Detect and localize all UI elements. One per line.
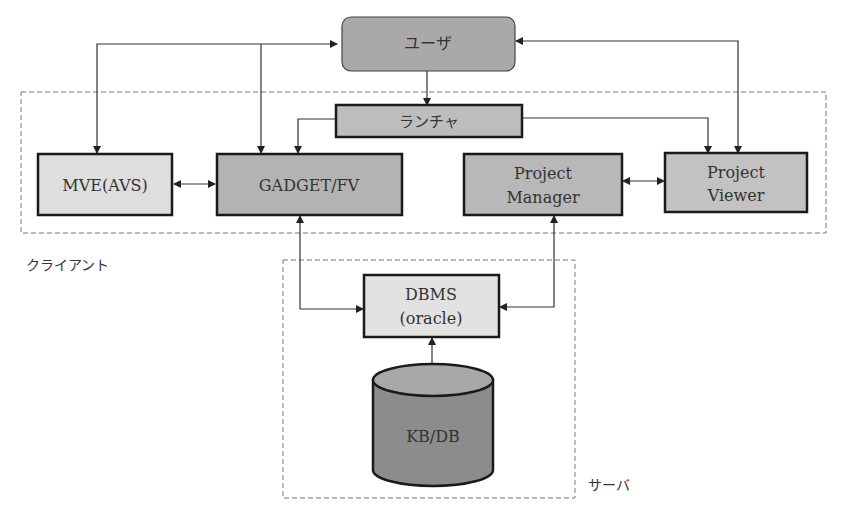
mve-node: MVE(AVS) (38, 154, 172, 215)
user-node: ユーザ (342, 17, 515, 71)
user-label: ユーザ (404, 34, 452, 53)
launcher-to-viewer-connector (522, 118, 708, 153)
user-to-mve-connector (97, 44, 337, 153)
dbms-label-line2: (oracle) (400, 309, 463, 328)
dbms-node: DBMS (oracle) (364, 275, 499, 337)
user-to-viewer-connector (516, 41, 738, 153)
kbdb-database-node: KB/DB (373, 364, 493, 486)
launcher-label: ランチャ (399, 113, 459, 131)
client-group-label: クライアント (26, 257, 109, 273)
project-manager-label-line2: Manager (506, 188, 579, 207)
project-viewer-label-line2: Viewer (707, 186, 765, 205)
project-manager-node: Project Manager (464, 154, 622, 215)
dbms-label-line1: DBMS (405, 285, 457, 304)
launcher-to-gadget-connector (298, 119, 335, 153)
gadget-dbms-connector (300, 216, 363, 309)
gadget-label: GADGET/FV (259, 176, 360, 195)
server-group-label: サーバ (588, 477, 630, 493)
project-viewer-node: Project Viewer (665, 153, 807, 212)
gadget-node: GADGET/FV (217, 154, 402, 215)
project-manager-label-line1: Project (514, 164, 572, 183)
architecture-diagram: ユーザ ランチャ MVE(AVS) GADGET/FV Project Mana… (0, 0, 843, 517)
launcher-node: ランチャ (336, 105, 522, 137)
mve-label: MVE(AVS) (62, 176, 147, 195)
manager-dbms-connector (500, 216, 554, 307)
kbdb-label: KB/DB (406, 427, 460, 446)
project-viewer-label-line1: Project (707, 163, 765, 182)
